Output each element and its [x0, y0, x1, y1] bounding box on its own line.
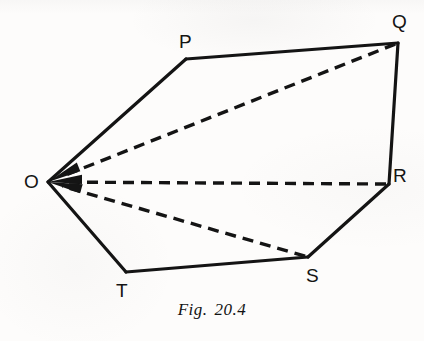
vertex-label-R: R: [393, 166, 407, 185]
edge-S-T: [126, 257, 308, 272]
edge-T-O: [48, 182, 126, 272]
vector-R-to-O: [63, 182, 386, 184]
vector-S-to-O: [62, 186, 305, 256]
figure-caption-prefix: Fig.: [178, 300, 208, 319]
edge-Q-R: [389, 43, 398, 184]
vertex-label-Q: Q: [392, 12, 407, 31]
figure-caption: Fig.20.4: [0, 300, 424, 320]
vertex-label-P: P: [179, 32, 192, 51]
edge-P-Q: [186, 43, 398, 59]
vertex-label-O: O: [24, 172, 39, 191]
figure-caption-number: 20.4: [208, 300, 247, 319]
figure-container: O P Q R S T Fig.20.4: [0, 0, 424, 341]
edge-R-S: [308, 184, 389, 257]
edge-O-P: [48, 59, 186, 182]
vertex-label-T: T: [116, 281, 128, 300]
solid-hexagon-outline: [48, 43, 398, 272]
vector-Q-to-O: [62, 44, 395, 176]
hexagon-vector-diagram: [0, 0, 424, 341]
vertex-label-S: S: [306, 266, 319, 285]
